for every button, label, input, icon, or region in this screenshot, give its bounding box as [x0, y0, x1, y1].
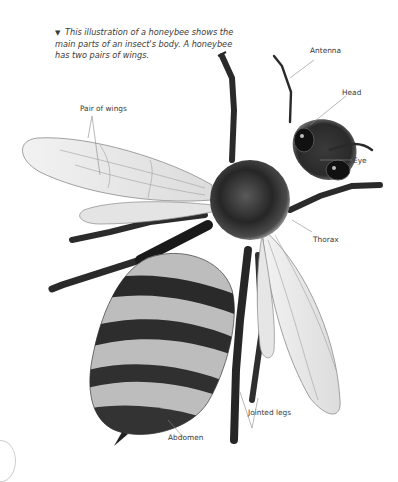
label-pair-of-wings: Pair of wings	[80, 104, 127, 113]
left-wings	[22, 138, 212, 224]
right-wings	[257, 228, 340, 414]
label-jointed-legs: Jointed legs	[248, 408, 291, 417]
label-thorax: Thorax	[313, 235, 339, 244]
label-eye: Eye	[353, 156, 367, 165]
front-leg-left	[218, 52, 234, 160]
front-leg-right	[290, 185, 380, 210]
abdomen	[80, 253, 250, 466]
thorax	[210, 160, 290, 240]
label-abdomen: Abdomen	[168, 433, 203, 442]
label-antenna: Antenna	[310, 46, 341, 55]
eye-left	[294, 128, 314, 152]
label-head: Head	[342, 88, 361, 97]
eye-right	[326, 160, 350, 180]
head	[293, 119, 357, 180]
